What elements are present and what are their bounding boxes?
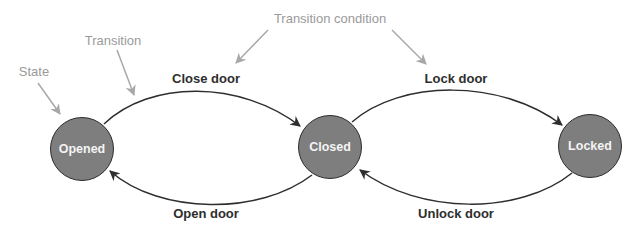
annotation-transition: Transition: [85, 33, 142, 48]
state-opened: Opened: [50, 117, 114, 181]
state-closed-label: Closed: [309, 140, 351, 154]
edge-lock-door: [352, 90, 562, 125]
state-locked: Locked: [558, 114, 622, 178]
state-closed: Closed: [298, 115, 362, 179]
state-locked-label: Locked: [568, 139, 612, 153]
transition-label-open-door: Open door: [173, 206, 239, 221]
annotation-state: State: [19, 64, 49, 79]
annotation-transition-condition: Transition condition: [274, 11, 386, 26]
transition-label-close-door: Close door: [172, 71, 240, 86]
state-opened-label: Opened: [59, 142, 106, 156]
edge-open-door: [110, 171, 312, 205]
transition-label-lock-door: Lock door: [425, 71, 488, 86]
pointer-state: [38, 83, 60, 114]
pointer-transition: [117, 50, 134, 95]
state-diagram: State Transition Transition condition Cl…: [0, 0, 628, 232]
pointer-condition-left: [236, 30, 268, 63]
edge-close-door: [104, 91, 300, 126]
edge-unlock-door: [360, 170, 572, 204]
transition-label-unlock-door: Unlock door: [418, 206, 494, 221]
pointer-condition-right: [392, 30, 426, 64]
